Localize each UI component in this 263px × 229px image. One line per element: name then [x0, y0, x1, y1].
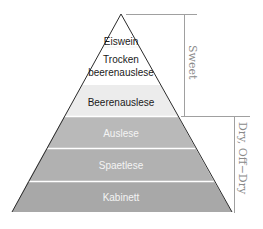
bracket-label-dry: Dry, Off−Dry	[236, 122, 249, 195]
level-label-eiswein: Eiswein	[104, 36, 138, 47]
level-label-auslese: Auslese	[103, 128, 139, 139]
level-label-spaetlese: Spaetlese	[99, 160, 144, 171]
level-label-trocken-line2: beerenauslese	[88, 67, 154, 78]
level-label-kabinett: Kabinett	[103, 192, 140, 203]
bracket-label-sweet: Sweet	[186, 45, 199, 80]
level-label-beerenauslese: Beerenauslese	[88, 97, 155, 108]
level-label-trocken-line1: Trocken	[103, 54, 139, 65]
wine-pyramid-diagram: Eiswein Trocken beerenauslese Beerenausl…	[0, 0, 263, 229]
